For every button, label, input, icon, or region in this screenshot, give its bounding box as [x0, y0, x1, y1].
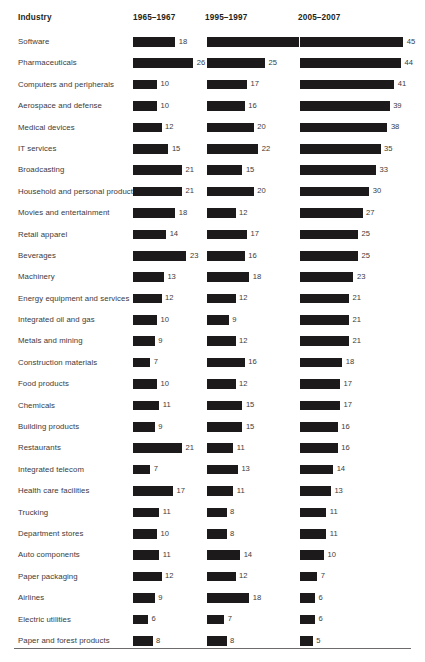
industry-label: IT services: [18, 144, 56, 154]
industry-label: Integrated oil and gas: [18, 315, 95, 325]
bar-cell-2005-2007: 13: [300, 485, 349, 497]
bar-1965-1967: [133, 144, 168, 154]
bar-1965-1967: [133, 208, 175, 218]
bar-value-1965-1967: 12: [165, 571, 173, 581]
bar-2005-2007: [300, 144, 381, 154]
table-row: Computers and peripherals101741: [0, 77, 425, 98]
bar-cell-1995-1997: 13: [207, 464, 256, 476]
column-header-1965-1967: 1965–1967: [133, 12, 175, 24]
table-header-row: Industry 1965–1967 1995–1997 2005–2007: [0, 12, 425, 28]
bar-cell-1965-1967: 18: [133, 207, 193, 219]
bar-1995-1997: [207, 315, 229, 325]
bar-1995-1997: [207, 80, 247, 90]
bar-cell-1995-1997: 14: [207, 549, 258, 561]
bar-2005-2007: [300, 615, 315, 625]
bar-cell-1965-1967: 10: [133, 79, 175, 91]
bar-2005-2007: [300, 529, 326, 539]
bar-1965-1967: [133, 593, 155, 603]
bar-cell-1965-1967: 11: [133, 400, 177, 412]
bar-1995-1997: [207, 486, 233, 496]
bar-1965-1967: [133, 123, 162, 133]
bar-value-1995-1997: 8: [230, 507, 234, 517]
bar-value-1995-1997: 8: [230, 636, 234, 646]
bar-cell-2005-2007: 23: [300, 271, 371, 283]
bar-2005-2007: [300, 443, 338, 453]
bar-1965-1967: [133, 550, 159, 560]
bar-1965-1967: [133, 508, 159, 518]
bar-value-1995-1997: 16: [248, 101, 256, 111]
bar-cell-2005-2007: 21: [300, 335, 367, 347]
bar-value-2005-2007: 30: [373, 186, 381, 196]
bar-2005-2007: [300, 636, 313, 646]
bar-1965-1967: [133, 358, 150, 368]
bar-cell-1965-1967: 13: [133, 271, 182, 283]
table-row: Pharmaceuticals262544: [0, 55, 425, 76]
bar-1965-1967: [133, 615, 148, 625]
bar-cell-1995-1997: 11: [207, 442, 251, 454]
bar-value-2005-2007: 17: [343, 400, 351, 410]
bar-value-2005-2007: 6: [319, 593, 323, 603]
bar-value-2005-2007: 5: [316, 636, 320, 646]
bar-value-1965-1967: 10: [161, 315, 169, 325]
bar-cell-2005-2007: 30: [300, 186, 387, 198]
bar-value-2005-2007: 21: [352, 315, 360, 325]
bar-cell-1965-1967: 7: [133, 464, 168, 476]
table-body: Software184045Pharmaceuticals262544Compu…: [0, 34, 425, 654]
bar-value-2005-2007: 16: [341, 422, 349, 432]
industry-label: Computers and peripherals: [18, 80, 114, 90]
bar-cell-1965-1967: 15: [133, 143, 186, 155]
bar-2005-2007: [300, 358, 342, 368]
table-row: Auto components111410: [0, 547, 425, 568]
bar-1995-1997: [207, 272, 249, 282]
bar-cell-1965-1967: 23: [133, 250, 204, 262]
bar-cell-2005-2007: 21: [300, 293, 367, 305]
bar-1965-1967: [133, 37, 175, 47]
bar-value-1995-1997: 13: [241, 464, 249, 474]
bar-cell-1965-1967: 17: [133, 485, 191, 497]
industry-label: Movies and entertainment: [18, 208, 110, 218]
bar-cell-1995-1997: 8: [207, 528, 245, 540]
bar-1995-1997: [207, 379, 236, 389]
bar-1965-1967: [133, 315, 157, 325]
table-row: Chemicals111517: [0, 398, 425, 419]
bar-value-1965-1967: 11: [163, 400, 171, 410]
table-row: Medical devices122038: [0, 120, 425, 141]
bar-cell-1995-1997: 12: [207, 571, 254, 583]
bar-cell-1995-1997: 17: [207, 229, 265, 241]
bar-value-2005-2007: 45: [407, 37, 415, 47]
bar-cell-2005-2007: 17: [300, 378, 358, 390]
table-row: Movies and entertainment181227: [0, 205, 425, 226]
bar-value-1995-1997: 12: [239, 379, 247, 389]
bar-cell-2005-2007: 10: [300, 549, 342, 561]
bar-value-1965-1967: 10: [161, 379, 169, 389]
bar-cell-1995-1997: 11: [207, 485, 251, 497]
bar-cell-2005-2007: 5: [300, 635, 331, 647]
bar-1965-1967: [133, 422, 155, 432]
bar-1965-1967: [133, 80, 157, 90]
bar-value-1995-1997: 16: [248, 251, 256, 261]
column-header-industry: Industry: [18, 12, 52, 24]
bar-value-1995-1997: 15: [246, 400, 254, 410]
bar-2005-2007: [300, 251, 358, 261]
table-row: Machinery131823: [0, 269, 425, 290]
bar-2005-2007: [300, 80, 394, 90]
bar-value-1995-1997: 11: [237, 443, 245, 453]
bar-cell-1995-1997: 25: [207, 57, 283, 69]
industry-label: Health care facilities: [18, 486, 89, 496]
bar-1995-1997: [207, 593, 249, 603]
bar-2005-2007: [300, 101, 390, 111]
bar-value-1965-1967: 11: [163, 550, 171, 560]
bar-cell-1995-1997: 22: [207, 143, 276, 155]
bar-value-1995-1997: 20: [257, 122, 265, 132]
bar-cell-1995-1997: 15: [207, 164, 260, 176]
bar-1965-1967: [133, 636, 153, 646]
bar-1995-1997: [207, 572, 236, 582]
bar-cell-1965-1967: 10: [133, 100, 175, 112]
table-row: Software184045: [0, 34, 425, 55]
bar-cell-2005-2007: 11: [300, 507, 344, 519]
table-row: Electric utilities676: [0, 612, 425, 633]
industry-label: Paper packaging: [18, 572, 78, 582]
bar-value-1995-1997: 11: [237, 486, 245, 496]
bar-value-2005-2007: 14: [337, 464, 345, 474]
bar-value-1995-1997: 25: [269, 58, 277, 68]
